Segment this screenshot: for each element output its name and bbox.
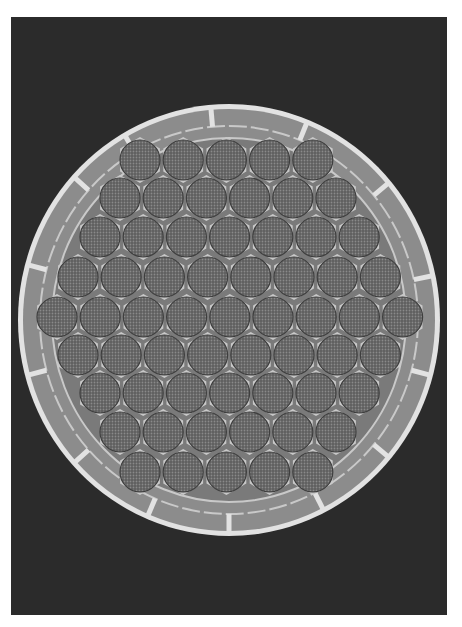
filament-group <box>383 297 423 337</box>
filament-group <box>58 257 98 297</box>
filament-group <box>274 335 314 375</box>
filament-group <box>293 452 333 492</box>
filament-group <box>163 140 203 180</box>
filament-group <box>296 373 336 413</box>
filament-group <box>120 140 160 180</box>
filament-group <box>167 297 207 337</box>
filament-group <box>273 412 313 452</box>
filament-group <box>206 140 246 180</box>
filament-group <box>210 297 250 337</box>
filament-group <box>80 297 120 337</box>
filament-group <box>143 178 183 218</box>
filament-group <box>123 373 163 413</box>
filament-group <box>188 335 228 375</box>
filament-group <box>360 257 400 297</box>
filament-group <box>253 217 293 257</box>
filament-group <box>253 373 293 413</box>
filament-group <box>273 178 313 218</box>
filament-group <box>166 217 206 257</box>
filament-group <box>188 257 228 297</box>
filament-group <box>231 257 271 297</box>
filament-group <box>296 217 336 257</box>
cable-cross-section <box>0 0 462 627</box>
filament-group <box>80 373 120 413</box>
filament-group <box>296 297 336 337</box>
filament-group <box>230 412 270 452</box>
filament-group <box>250 140 290 180</box>
filament-group <box>143 412 183 452</box>
filament-group <box>80 217 120 257</box>
filament-group <box>186 412 226 452</box>
filament-group <box>120 452 160 492</box>
filament-group <box>231 335 271 375</box>
filament-group <box>163 452 203 492</box>
filament-group <box>123 217 163 257</box>
filament-group <box>144 335 184 375</box>
filament-group <box>253 297 293 337</box>
filament-group <box>186 178 226 218</box>
filament-group <box>339 297 379 337</box>
filament-group <box>100 178 140 218</box>
filament-group <box>360 335 400 375</box>
filament-group <box>206 452 246 492</box>
filament-group <box>339 217 379 257</box>
filament-group <box>293 140 333 180</box>
filament-group <box>250 452 290 492</box>
filament-group <box>101 335 141 375</box>
filament-group <box>316 178 356 218</box>
filament-group <box>144 257 184 297</box>
filament-group <box>210 217 250 257</box>
filament-group <box>317 257 357 297</box>
filament-group <box>274 257 314 297</box>
filament-group <box>316 412 356 452</box>
filament-group <box>317 335 357 375</box>
filament-group <box>100 412 140 452</box>
filament-group <box>101 257 141 297</box>
filament-group <box>339 373 379 413</box>
filament-group <box>230 178 270 218</box>
filament-group <box>210 373 250 413</box>
filament-group <box>166 373 206 413</box>
filament-group <box>37 297 77 337</box>
filament-group <box>123 297 163 337</box>
filament-group <box>58 335 98 375</box>
